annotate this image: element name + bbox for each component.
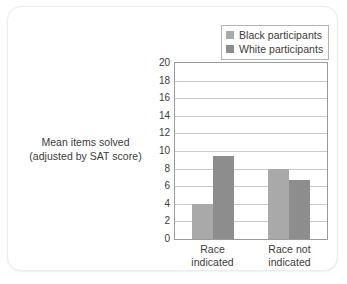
- bar: [213, 156, 234, 239]
- bar: [268, 169, 289, 239]
- y-axis-tick-label: 16: [148, 93, 170, 103]
- plot-area: [174, 62, 328, 240]
- bar-group: [251, 63, 327, 239]
- legend-label: White participants: [239, 43, 323, 56]
- y-axis-tick-label: 20: [148, 58, 170, 68]
- x-axis-tick-label-line: Race not: [251, 243, 328, 256]
- legend-swatch-icon: [226, 31, 234, 39]
- x-axis-tick-label-line: Race: [174, 243, 251, 256]
- y-axis-tick-label: 10: [148, 146, 170, 156]
- plot-wrapper: 20181614121086420: [148, 62, 328, 240]
- x-axis-tick-label: Raceindicated: [174, 243, 251, 269]
- bars-layer: [175, 63, 327, 239]
- y-axis-tick-label: 12: [148, 128, 170, 138]
- bar: [192, 204, 213, 239]
- x-axis-tick-label-line: indicated: [174, 256, 251, 269]
- y-axis-tick-label: 14: [148, 111, 170, 121]
- figure-card: Black participants White participants Me…: [7, 6, 338, 271]
- y-axis-title-line2: (adjusted by SAT score): [16, 149, 155, 163]
- x-axis-tick-label: Race notindicated: [251, 243, 328, 269]
- y-axis-tick-label: 6: [148, 181, 170, 191]
- legend-item-white-participants: White participants: [226, 42, 323, 56]
- y-axis-tick-label: 2: [148, 216, 170, 226]
- bar-group: [175, 63, 251, 239]
- y-axis-title-line1: Mean items solved: [16, 135, 155, 149]
- chart-legend: Black participants White participants: [221, 25, 329, 60]
- x-axis-tick-label-line: indicated: [251, 256, 328, 269]
- y-axis-tick-label: 4: [148, 199, 170, 209]
- bar: [289, 180, 310, 239]
- legend-item-black-participants: Black participants: [226, 28, 323, 42]
- y-axis-title: Mean items solved (adjusted by SAT score…: [16, 135, 155, 163]
- y-axis-tick-label: 0: [148, 234, 170, 244]
- legend-label: Black participants: [239, 29, 322, 42]
- legend-swatch-icon: [226, 45, 234, 53]
- y-axis-tick-label: 18: [148, 76, 170, 86]
- y-axis-tick-label: 8: [148, 164, 170, 174]
- y-axis-tick-labels: 20181614121086420: [148, 62, 170, 240]
- x-axis-tick-labels: RaceindicatedRace notindicated: [174, 243, 328, 269]
